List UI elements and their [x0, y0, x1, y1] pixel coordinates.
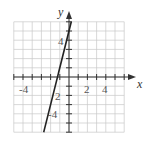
y-tick-label: 4: [58, 35, 64, 47]
y-tick-label: 2: [55, 90, 61, 102]
x-tick-label: 4: [102, 83, 108, 95]
x-tick-label: 2: [84, 83, 90, 95]
x-tick-label: -4: [19, 83, 29, 95]
x-axis-label: x: [136, 77, 143, 91]
coordinate-plane: x y -4 2 4 4 2 -4: [0, 0, 146, 142]
y-axis-label: y: [57, 5, 64, 19]
x-axis-arrow-icon: [128, 74, 136, 80]
y-axis-arrow-icon: [66, 11, 72, 19]
